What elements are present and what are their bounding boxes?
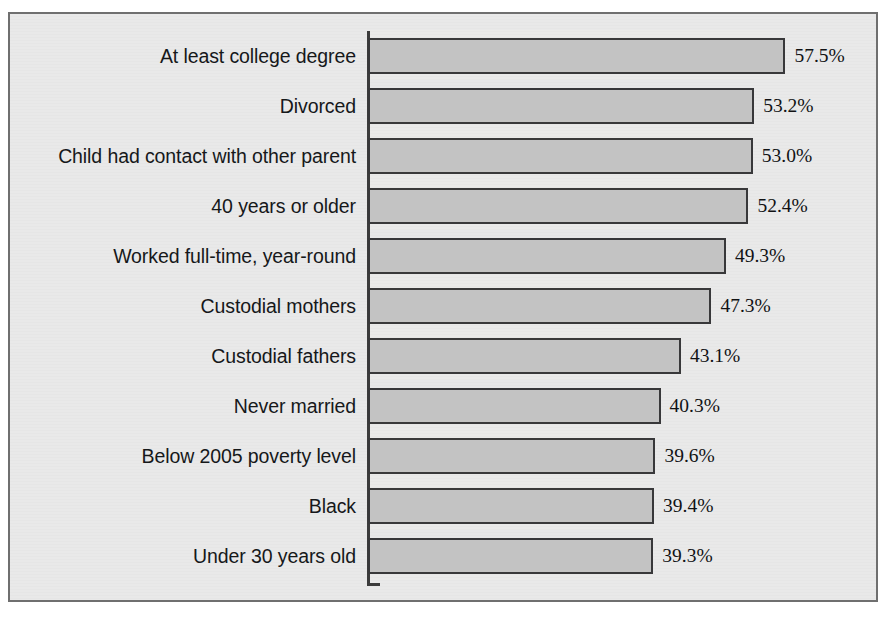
bar-shape <box>368 288 711 324</box>
bar-category-label: At least college degree <box>160 31 356 81</box>
bar-row: Below 2005 poverty level39.6% <box>10 431 876 481</box>
bar-row: Black39.4% <box>10 481 876 531</box>
bar-value-label: 39.3% <box>662 531 712 581</box>
bar-value-label: 53.2% <box>763 81 813 131</box>
bar-value-label: 39.6% <box>664 431 714 481</box>
bar-category-label: Worked full-time, year-round <box>113 231 356 281</box>
bar-category-label: Custodial mothers <box>201 281 356 331</box>
chart-frame: At least college degree57.5%Divorced53.2… <box>8 12 878 602</box>
bar-value-label: 52.4% <box>757 181 807 231</box>
bar-chart-figure: At least college degree57.5%Divorced53.2… <box>0 0 889 617</box>
value-axis-baseline <box>367 583 380 586</box>
bar-row: Child had contact with other parent53.0% <box>10 131 876 181</box>
bar-row: Custodial mothers47.3% <box>10 281 876 331</box>
bar-value-label: 47.3% <box>720 281 770 331</box>
bar-shape <box>368 88 754 124</box>
bar-category-label: Below 2005 poverty level <box>142 431 356 481</box>
bar-row: Under 30 years old39.3% <box>10 531 876 581</box>
bar-shape <box>368 188 748 224</box>
bar-category-label: 40 years or older <box>211 181 356 231</box>
bar-row: 40 years or older52.4% <box>10 181 876 231</box>
bar-value-label: 49.3% <box>735 231 785 281</box>
bar-row: At least college degree57.5% <box>10 31 876 81</box>
bar-shape <box>368 38 785 74</box>
bar-row: Worked full-time, year-round49.3% <box>10 231 876 281</box>
bar-shape <box>368 238 726 274</box>
bar-shape <box>368 338 681 374</box>
bar-value-label: 40.3% <box>670 381 720 431</box>
bar-value-label: 53.0% <box>762 131 812 181</box>
bar-category-label: Under 30 years old <box>193 531 356 581</box>
plot-area: At least college degree57.5%Divorced53.2… <box>10 14 876 600</box>
bar-shape <box>368 538 653 574</box>
bar-value-label: 57.5% <box>794 31 844 81</box>
bar-shape <box>368 488 654 524</box>
bar-category-label: Never married <box>234 381 356 431</box>
bar-value-label: 43.1% <box>690 331 740 381</box>
bar-shape <box>368 438 655 474</box>
bar-category-label: Child had contact with other parent <box>58 131 356 181</box>
bar-row: Never married40.3% <box>10 381 876 431</box>
bar-shape <box>368 138 753 174</box>
bar-category-label: Black <box>309 481 356 531</box>
bar-row: Custodial fathers43.1% <box>10 331 876 381</box>
bar-category-label: Custodial fathers <box>211 331 356 381</box>
bar-row: Divorced53.2% <box>10 81 876 131</box>
bar-shape <box>368 388 661 424</box>
bar-category-label: Divorced <box>280 81 356 131</box>
bar-value-label: 39.4% <box>663 481 713 531</box>
